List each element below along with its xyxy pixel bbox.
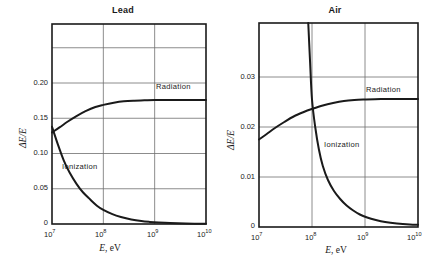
x-tick-label: 108 — [95, 228, 106, 239]
x-tick-label: 109 — [147, 228, 158, 239]
curve-radiation-air — [259, 99, 418, 140]
y-axis-title-lead: ΔE/E — [18, 128, 28, 148]
y-tick-label: 0.03 — [218, 72, 255, 81]
y-tick-label: 0 — [10, 218, 48, 227]
x-axis-title-air: E, eV — [325, 245, 347, 255]
y-tick-label: 0.01 — [218, 172, 255, 181]
y-tick-label: 0.15 — [10, 113, 48, 122]
x-axis-title-lead: E, eV — [99, 243, 121, 253]
x-tick-label: 1010 — [197, 228, 212, 239]
gridlines-lead — [52, 24, 206, 224]
y-tick-label: 0 — [218, 221, 255, 230]
curve-label-ionization-air: Ionization — [324, 140, 360, 149]
y-axis-title-air: ΔE/E — [226, 130, 236, 150]
curve-label-ionization-lead: Ionization — [62, 162, 98, 171]
plot-panel-air: Air ΔE/E 0.03 0.02 0.01 0 107 108 109 10… — [216, 0, 432, 264]
x-tick-label: 107 — [251, 231, 262, 242]
y-tick-label: 0.10 — [10, 148, 48, 157]
x-tick-label: 109 — [357, 231, 368, 242]
curve-ionization-lead — [52, 127, 206, 224]
y-tick-label: 0.02 — [218, 122, 255, 131]
x-tick-label: 107 — [44, 228, 55, 239]
curve-radiation-lead — [52, 100, 206, 132]
plot-panel-lead: Lead ΔE/E 0.20 0.15 0.10 0.05 0 107 108 … — [0, 0, 216, 264]
y-tick-label: 0.05 — [10, 183, 48, 192]
plot-frame-lead — [52, 24, 206, 224]
curve-label-radiation-air: Radiation — [366, 85, 401, 94]
x-tick-label: 108 — [305, 231, 316, 242]
x-tick-label: 1010 — [407, 231, 422, 242]
curve-ionization-air — [308, 23, 418, 225]
curve-label-radiation-lead: Radiation — [156, 82, 191, 91]
figure-container: Lead ΔE/E 0.20 0.15 0.10 0.05 0 107 108 … — [0, 0, 432, 264]
y-tick-label: 0.20 — [10, 78, 48, 87]
